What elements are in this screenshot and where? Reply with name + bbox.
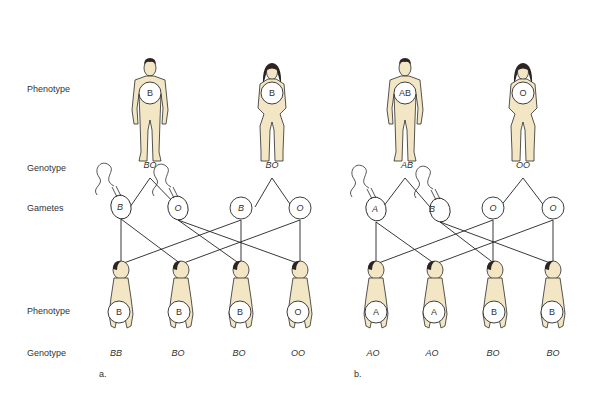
panel-label-b: b. — [354, 369, 362, 379]
mother-figure-a — [258, 63, 286, 161]
mother-phenotype: O — [519, 88, 526, 98]
mother-phenotype: B — [269, 88, 275, 98]
child-phenotype: B — [237, 307, 243, 317]
gamete-4: O — [296, 203, 303, 213]
mother-figure-b — [509, 63, 537, 161]
child-phenotype: B — [176, 307, 182, 317]
child-genotype: BO — [486, 348, 499, 358]
father-figure-a — [132, 58, 168, 161]
child-genotype: BB — [110, 348, 122, 358]
child-phenotype: B — [549, 307, 555, 317]
child-genotype: OO — [291, 348, 305, 358]
inheritance-diagram — [0, 0, 591, 397]
father-phenotype: AB — [399, 88, 411, 98]
father-phenotype: B — [147, 88, 153, 98]
mother-genotype: BO — [265, 160, 278, 170]
child-genotype: AO — [425, 348, 438, 358]
child-phenotype: O — [294, 307, 301, 317]
father-genotype: AB — [401, 160, 413, 170]
gamete-2: O — [174, 203, 181, 213]
father-figure-b — [387, 58, 423, 161]
gamete-3: B — [238, 203, 244, 213]
child-genotype: AO — [366, 348, 379, 358]
father-genotype: BO — [143, 160, 156, 170]
child-genotype: BO — [232, 348, 245, 358]
panel-label-a: a. — [99, 369, 107, 379]
child-phenotype: A — [431, 307, 437, 317]
child-genotype: BO — [171, 348, 184, 358]
child-genotype: BO — [546, 348, 559, 358]
gamete-3: O — [489, 203, 496, 213]
gamete-1: A — [372, 204, 378, 214]
child-phenotype: B — [116, 307, 122, 317]
gamete-1: B — [117, 202, 123, 212]
mother-genotype: OO — [516, 160, 530, 170]
gamete-4: O — [549, 203, 556, 213]
child-phenotype: B — [491, 307, 497, 317]
gamete-2: B — [429, 204, 435, 214]
child-phenotype: A — [373, 307, 379, 317]
